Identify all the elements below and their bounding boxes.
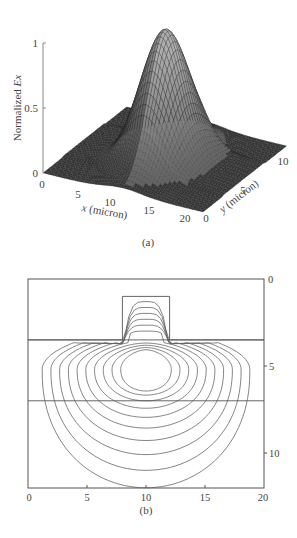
plot-frame <box>28 279 264 488</box>
contour-line <box>77 325 215 428</box>
contour-line <box>103 345 188 401</box>
x-tick-label: 10 <box>141 492 152 503</box>
contour-line <box>68 319 223 440</box>
contour-line <box>60 313 233 454</box>
x-tick-label: 5 <box>75 188 81 200</box>
x-tick-label: 0 <box>39 178 45 190</box>
contour-line <box>112 348 180 396</box>
contour-plot-panel: 0 5 10 15 20 0 5 10 (b) <box>26 274 279 517</box>
y-tick-label: 10 <box>269 448 280 459</box>
z-tick-label: 1 <box>33 37 39 49</box>
panel-a-caption: (a) <box>142 236 155 249</box>
surface-plot-panel: 1 0.5 0 Normalized Ex 0 5 10 15 20 x (mi… <box>11 29 289 249</box>
y-tick-label: 5 <box>269 361 274 372</box>
y-tick-label: 0 <box>203 212 209 224</box>
x-tick-label: 15 <box>144 204 156 216</box>
z-axis-label: Normalized Ex <box>11 75 23 141</box>
x-axis-label: x (micron) <box>80 201 129 222</box>
x-tick-label: 20 <box>180 212 192 224</box>
contour-line <box>95 343 198 408</box>
y-tick-label: 0 <box>268 274 273 285</box>
x-tick-label: 5 <box>84 492 89 503</box>
z-tick-label: 0 <box>33 167 39 179</box>
panel-b-caption: (b) <box>140 504 153 517</box>
contour-lines <box>42 302 250 488</box>
y-tick-label: 10 <box>278 155 290 167</box>
contour-line <box>51 308 241 471</box>
figure: 1 0.5 0 Normalized Ex 0 5 10 15 20 x (mi… <box>0 0 297 538</box>
x-tick-label: 15 <box>200 492 211 503</box>
x-tick-label: 20 <box>258 492 269 503</box>
z-tick-label: 0.5 <box>24 102 38 114</box>
rib-outline <box>28 296 264 340</box>
contour-line <box>121 350 172 391</box>
x-tick-label: 0 <box>26 492 31 503</box>
